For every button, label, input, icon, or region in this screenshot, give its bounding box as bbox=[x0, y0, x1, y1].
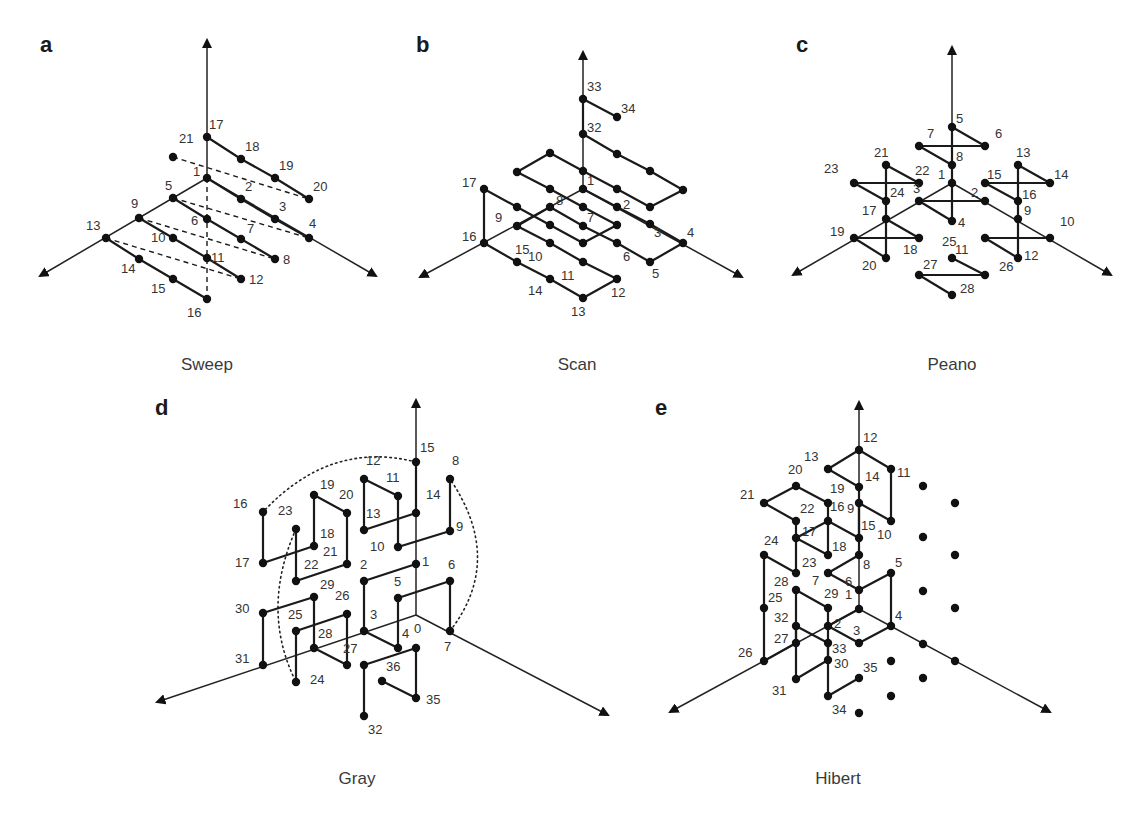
grid-point-16 bbox=[480, 239, 488, 247]
grid-point-15 bbox=[513, 258, 521, 266]
point-label: 31 bbox=[235, 651, 249, 666]
point-label: 27 bbox=[923, 257, 937, 272]
point-label: 26 bbox=[999, 259, 1013, 274]
point-label: 17 bbox=[235, 555, 249, 570]
grid-point-34 bbox=[824, 692, 832, 700]
point-label: 15 bbox=[151, 281, 165, 296]
curve-edges bbox=[263, 462, 450, 716]
grid-point-14 bbox=[546, 275, 554, 283]
point-label: 16 bbox=[233, 496, 247, 511]
point-label: 18 bbox=[832, 539, 846, 554]
curve-segment-17-18 bbox=[484, 189, 517, 207]
grid-point-7 bbox=[915, 142, 923, 150]
point-label: 3 bbox=[279, 199, 286, 214]
grid-point-7 bbox=[824, 569, 832, 577]
point-label: 12 bbox=[863, 430, 877, 445]
curve-segment-5-6 bbox=[952, 127, 985, 146]
curve-segment-34-35 bbox=[828, 678, 859, 696]
point-label: 13 bbox=[571, 304, 585, 319]
point-label: 7 bbox=[247, 221, 254, 236]
grid-point-29 bbox=[310, 593, 318, 601]
curve-segment-21-22 bbox=[764, 503, 796, 521]
grid-point-19 bbox=[850, 234, 858, 242]
grid-point-13 bbox=[102, 234, 110, 242]
panel-scan: b Scan 1234567891011121314151617323334 bbox=[416, 32, 742, 374]
point-label: 23 bbox=[278, 503, 292, 518]
point-label: 6 bbox=[191, 213, 198, 228]
curve-segment-12-13 bbox=[828, 450, 859, 469]
curve-segment-10-11 bbox=[550, 243, 583, 262]
point-label: 8 bbox=[956, 149, 963, 164]
point-label: 5 bbox=[394, 574, 401, 589]
grid-point-26 bbox=[579, 167, 587, 175]
point-label: 25 bbox=[768, 590, 782, 605]
curve-segment-13-14 bbox=[106, 238, 139, 259]
point-label: 2 bbox=[623, 197, 630, 212]
grid-point-32 bbox=[792, 622, 800, 630]
point-label: 4 bbox=[958, 215, 965, 230]
panel-peano: c Peano 12345678910111213141516171819202… bbox=[793, 32, 1111, 374]
point-label: 11 bbox=[897, 465, 911, 480]
grid-point-19 bbox=[546, 221, 554, 229]
unvisited-grid-point bbox=[951, 657, 959, 665]
curve-segment-7-8 bbox=[550, 207, 583, 226]
point-label: 22 bbox=[304, 557, 318, 572]
panel-letter: b bbox=[416, 32, 429, 57]
curve-segment-23-24 bbox=[764, 555, 796, 573]
point-label: 13 bbox=[804, 449, 818, 464]
unvisited-grid-point bbox=[951, 604, 959, 612]
grid-point-17 bbox=[203, 133, 211, 141]
curve-segment-25-26 bbox=[550, 153, 583, 171]
grid-point-3 bbox=[271, 215, 279, 223]
curve-segment-6-7 bbox=[207, 219, 241, 239]
point-label: 7 bbox=[444, 639, 451, 654]
grid-point-18 bbox=[237, 155, 245, 163]
point-label: 8 bbox=[283, 252, 290, 267]
unvisited-grid-point bbox=[919, 482, 927, 490]
grid-point-12 bbox=[1014, 254, 1022, 262]
grid-point-2 bbox=[613, 203, 621, 211]
point-label: 18 bbox=[903, 242, 917, 257]
panel-letter: c bbox=[796, 32, 808, 57]
curve-segment-7-8 bbox=[828, 555, 859, 573]
grid-point-27 bbox=[915, 271, 923, 279]
grid-point-2 bbox=[981, 197, 989, 205]
grid-point-29 bbox=[824, 604, 832, 612]
grid-point-4 bbox=[948, 217, 956, 225]
panel-gray: d Gray 012345678910111213141516171819202… bbox=[155, 395, 608, 788]
grid-point-24 bbox=[513, 168, 521, 176]
point-label: 12 bbox=[366, 453, 380, 468]
grid-point-5 bbox=[948, 123, 956, 131]
point-label: 21 bbox=[323, 544, 337, 559]
point-label: 12 bbox=[249, 272, 263, 287]
grid-point-2 bbox=[237, 195, 245, 203]
grid-point-21 bbox=[343, 560, 351, 568]
space-filling-curves-figure: a Sweep 12345678910111213141516171819202… bbox=[0, 0, 1139, 819]
grid-point-5 bbox=[646, 258, 654, 266]
point-label: 28 bbox=[960, 281, 974, 296]
point-label: 0 bbox=[414, 621, 421, 636]
point-label: 9 bbox=[131, 196, 138, 211]
curve-segment-19-20 bbox=[550, 225, 583, 243]
point-label: 1 bbox=[193, 164, 200, 179]
point-label: 3 bbox=[370, 607, 377, 622]
grid-point-33 bbox=[579, 95, 587, 103]
grid-point-29 bbox=[679, 186, 687, 194]
point-label: 11 bbox=[955, 242, 969, 257]
grid-point-20 bbox=[305, 195, 313, 203]
point-label: 4 bbox=[402, 626, 409, 641]
grid-point-25 bbox=[546, 149, 554, 157]
grid-point-12 bbox=[237, 275, 245, 283]
grid-point-3 bbox=[360, 627, 368, 635]
point-label: 20 bbox=[788, 462, 802, 477]
grid-point-2 bbox=[360, 577, 368, 585]
curve-segment-17-18 bbox=[796, 538, 828, 555]
unvisited-grid-point bbox=[919, 674, 927, 682]
grid-point-25 bbox=[760, 604, 768, 612]
grid-point-16 bbox=[259, 508, 267, 516]
curve-segment-10-11 bbox=[173, 238, 207, 258]
grid-point-5 bbox=[887, 569, 895, 577]
grid-point-26 bbox=[981, 271, 989, 279]
grid-point-35 bbox=[855, 674, 863, 682]
grid-point-3 bbox=[915, 197, 923, 205]
